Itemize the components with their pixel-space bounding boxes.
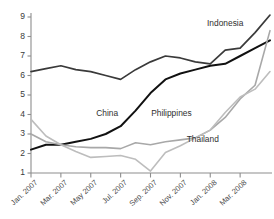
series-labels: IndonesiaChinaPhilippinesThailand — [96, 18, 243, 144]
chart-container: 123456789 Jan. 2007Mar. 2007May 2007Jul.… — [0, 0, 274, 219]
series-line-thailand — [31, 72, 270, 171]
x-tick-label: Nov. 2007 — [158, 178, 189, 208]
y-tick-label: 7 — [20, 50, 25, 60]
y-tick-label: 2 — [20, 148, 25, 158]
y-tick-label: 8 — [20, 31, 25, 41]
x-axis-ticks: Jan. 2007Mar. 2007May 2007Jul. 2007Sep. … — [9, 173, 249, 208]
y-tick-label: 6 — [20, 70, 25, 80]
y-tick-label: 1 — [20, 167, 25, 177]
x-axis-group: Jan. 2007Mar. 2007May 2007Jul. 2007Sep. … — [9, 173, 272, 208]
x-tick-label: Sep. 2007 — [127, 178, 158, 208]
y-axis-ticks: 123456789 — [20, 11, 31, 177]
series-line-china — [31, 40, 270, 149]
series-label-china: China — [96, 108, 118, 118]
x-tick-label: Mar. 2007 — [38, 178, 69, 208]
y-tick-label: 5 — [20, 89, 25, 99]
y-tick-label: 9 — [20, 11, 25, 21]
series-label-indonesia: Indonesia — [207, 18, 244, 28]
series-label-philippines: Philippines — [151, 108, 192, 118]
y-tick-label: 3 — [20, 128, 25, 138]
x-tick-label: Jul. 2007 — [100, 178, 129, 206]
x-tick-label: May 2007 — [69, 178, 100, 207]
x-tick-label: Jan. 2008 — [188, 178, 219, 207]
x-tick-label: Mar. 2008 — [218, 178, 249, 208]
x-tick-label: Jan. 2007 — [9, 178, 40, 207]
series-label-thailand: Thailand — [187, 134, 219, 144]
y-tick-label: 4 — [20, 109, 25, 119]
series-lines — [31, 15, 270, 171]
line-chart: 123456789 Jan. 2007Mar. 2007May 2007Jul.… — [0, 0, 274, 219]
y-axis-group: 123456789 — [20, 11, 31, 177]
